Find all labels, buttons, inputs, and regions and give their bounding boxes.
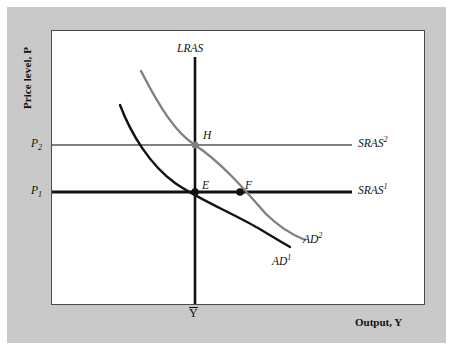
figure-screenshot: Price level, P Output, Y P2 P1 Y LRAS SR… xyxy=(0,0,453,356)
curve-label-sras2: SRAS2 xyxy=(358,138,388,150)
plot-area xyxy=(51,30,425,305)
y-tick-p2: P2 xyxy=(31,138,42,150)
point-label-f: F xyxy=(245,180,252,192)
y-tick-p1: P1 xyxy=(31,185,42,197)
curve-label-sras1: SRAS1 xyxy=(358,185,388,197)
curve-label-lras: LRAS xyxy=(177,43,203,55)
x-tick-ybar-text: Y xyxy=(189,306,198,321)
point-label-h: H xyxy=(203,130,211,142)
x-tick-ybar: Y xyxy=(189,306,198,321)
y-axis-label: Price level, P xyxy=(21,23,33,133)
curve-label-ad2: AD2 xyxy=(303,234,322,246)
curve-label-ad1: AD1 xyxy=(272,256,291,268)
point-label-e: E xyxy=(202,180,209,192)
x-axis-label: Output, Y xyxy=(355,316,402,328)
